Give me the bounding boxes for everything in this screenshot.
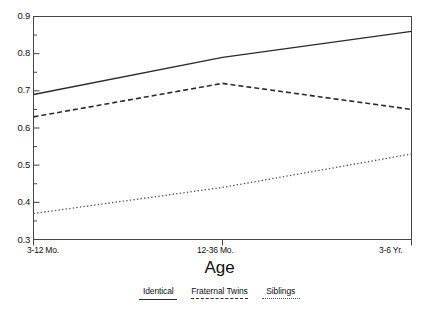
series-line-fraternal-twins bbox=[34, 83, 412, 116]
series-line-identical bbox=[34, 31, 412, 94]
series-lines bbox=[34, 31, 412, 213]
legend-item-identical: Identical bbox=[139, 286, 177, 303]
x-tick-label-last: 3-6 Yr. bbox=[379, 245, 403, 255]
y-axis-ticks bbox=[34, 17, 40, 240]
x-axis-title: Age bbox=[0, 258, 439, 278]
legend-swatch-solid-icon bbox=[139, 299, 177, 303]
series-line-siblings bbox=[34, 154, 412, 213]
chart-legend: Identical Fraternal Twins Siblings bbox=[0, 286, 439, 303]
legend-label: Fraternal Twins bbox=[191, 286, 247, 296]
legend-swatch-dashed-icon bbox=[191, 298, 247, 302]
x-tick-label-mid: 12-36 Mo. bbox=[197, 245, 233, 255]
legend-item-siblings: Siblings bbox=[262, 286, 300, 302]
legend-item-fraternal-twins: Fraternal Twins bbox=[191, 286, 247, 302]
x-tick-label-first: 3-12 Mo. bbox=[27, 245, 59, 255]
legend-label: Siblings bbox=[266, 286, 295, 296]
legend-swatch-dotted-icon bbox=[262, 298, 300, 302]
legend-label: Identical bbox=[143, 286, 174, 296]
line-chart: 0.9 0.8 0.7 0.6 0.5 0.4 0.3 3-12 Mo. 12-… bbox=[0, 0, 439, 310]
